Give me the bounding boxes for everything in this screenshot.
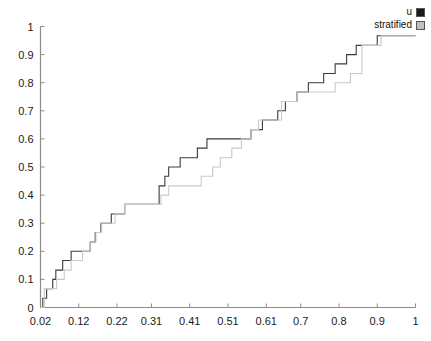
x-tick-label: 0.7 [293,315,308,327]
y-tick-label: 1 [0,21,34,33]
y-tick-label: 0.6 [0,133,34,145]
series-group [41,36,416,308]
series-line-u [41,36,416,308]
y-tick-label: 0.8 [0,77,34,89]
legend-swatch-u [416,8,425,17]
x-tick-label: 0.41 [179,315,200,327]
chart-plot-area [0,0,431,341]
x-tick-label: 0.12 [68,315,89,327]
chart-legend: u stratified [374,6,425,31]
y-tick-label: 0.9 [0,49,34,61]
x-tick-label: 1 [412,315,418,327]
legend-item-u: u [406,6,425,18]
y-tick-label: 0.1 [0,273,34,285]
x-tick-label: 0.51 [217,315,238,327]
chart-container: 00.10.20.30.40.50.60.70.80.91 0.020.120.… [0,0,431,341]
legend-label-stratified: stratified [374,19,412,31]
y-tick-label: 0.2 [0,245,34,257]
series-line-stratified [41,36,416,308]
x-tick-label: 0.61 [256,315,277,327]
y-tick-label: 0.3 [0,217,34,229]
y-tick-label: 0.7 [0,105,34,117]
x-tick-label: 0.9 [370,315,385,327]
legend-label-u: u [406,6,412,18]
x-tick-label: 0.02 [30,315,51,327]
legend-item-stratified: stratified [374,19,425,31]
x-tick-label: 0.31 [141,315,162,327]
y-tick-label: 0 [0,302,34,314]
y-tick-label: 0.5 [0,161,34,173]
x-tick-label: 0.22 [106,315,127,327]
x-tick-label: 0.8 [331,315,346,327]
legend-swatch-stratified [416,21,425,30]
axis-group [41,27,416,308]
y-tick-label: 0.4 [0,189,34,201]
